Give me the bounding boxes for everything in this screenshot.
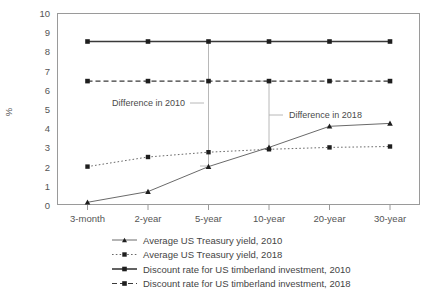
y-tick-label: 3 bbox=[45, 142, 50, 153]
y-tick-label: 5 bbox=[45, 104, 50, 115]
chart-legend: Average US Treasury yield, 2010 Average … bbox=[112, 235, 351, 290]
line-chart: % 10 9 8 7 6 5 4 3 2 1 0 3-month 2-ye bbox=[0, 0, 441, 297]
y-tick-label: 7 bbox=[45, 66, 50, 77]
x-axis-ticks bbox=[88, 205, 391, 211]
legend-item-treasury-2018[interactable]: Average US Treasury yield, 2018 bbox=[112, 249, 282, 260]
legend-item-discount-2010[interactable]: Discount rate for US timberland investme… bbox=[112, 264, 351, 275]
x-tick-label-3-month: 3-month bbox=[70, 213, 105, 224]
y-tick-label: 8 bbox=[45, 46, 50, 57]
y-tick-label: 2 bbox=[45, 162, 50, 173]
y-tick-label: 0 bbox=[45, 200, 50, 211]
legend-item-discount-2018[interactable]: Discount rate for US timberland investme… bbox=[112, 278, 351, 289]
legend-label: Average US Treasury yield, 2018 bbox=[143, 249, 282, 260]
series-discount-rate-2018 bbox=[85, 79, 392, 84]
series-line bbox=[88, 123, 391, 202]
y-axis-title: % bbox=[3, 107, 14, 116]
chart-container: % 10 9 8 7 6 5 4 3 2 1 0 3-month 2-ye bbox=[0, 0, 441, 297]
annotation-bracket-2018 bbox=[261, 81, 284, 149]
series-treasury-yield-2010 bbox=[85, 121, 393, 205]
x-tick-label-2-year: 2-year bbox=[135, 213, 162, 224]
y-axis-tick-labels: 10 9 8 7 6 5 4 3 2 1 0 bbox=[39, 8, 50, 211]
legend-label: Discount rate for US timberland investme… bbox=[143, 264, 351, 275]
annotation-label-difference-2018: Difference in 2018 bbox=[289, 110, 362, 120]
legend-marker-square-icon bbox=[122, 281, 127, 286]
legend-label: Average US Treasury yield, 2010 bbox=[143, 235, 282, 246]
x-tick-label-20-year: 20-year bbox=[313, 213, 345, 224]
legend-marker-square-icon bbox=[122, 252, 126, 256]
x-tick-label-10-year: 10-year bbox=[253, 213, 285, 224]
y-tick-label: 1 bbox=[45, 181, 50, 192]
legend-item-treasury-2010[interactable]: Average US Treasury yield, 2010 bbox=[112, 235, 282, 246]
y-tick-label: 9 bbox=[45, 27, 50, 38]
series-markers bbox=[85, 121, 393, 205]
y-tick-label: 6 bbox=[45, 85, 50, 96]
y-tick-label: 10 bbox=[39, 8, 50, 19]
y-tick-label: 4 bbox=[45, 123, 50, 134]
series-discount-rate-2010 bbox=[85, 39, 392, 44]
annotation-label-difference-2010: Difference in 2010 bbox=[112, 98, 185, 108]
x-axis-tick-labels: 3-month 2-year 5-year 10-year 20-year 30… bbox=[70, 213, 406, 224]
legend-label: Discount rate for US timberland investme… bbox=[143, 278, 351, 289]
x-tick-label-5-year: 5-year bbox=[195, 213, 222, 224]
legend-marker-square-icon bbox=[122, 267, 127, 272]
x-tick-label-30-year: 30-year bbox=[374, 213, 406, 224]
annotation-bracket-2010 bbox=[190, 42, 209, 167]
